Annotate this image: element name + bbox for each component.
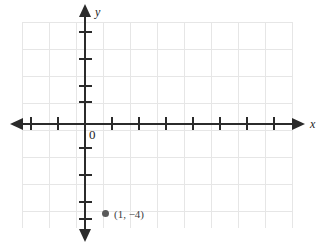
plotted-point-label: (1, −4) bbox=[114, 209, 144, 220]
y-axis-bottom-arrowhead bbox=[79, 229, 91, 242]
coordinate-plane-figure: y x 0 (1, −4) bbox=[0, 0, 322, 245]
axis-layer: y x 0 bbox=[0, 0, 322, 245]
x-axis-tick bbox=[138, 117, 140, 130]
y-axis-tick bbox=[79, 101, 92, 103]
x-axis-right-arrowhead bbox=[292, 118, 305, 130]
x-axis-tick bbox=[246, 117, 248, 130]
y-axis-tick bbox=[79, 174, 92, 176]
plotted-point-marker bbox=[102, 210, 109, 217]
y-axis-tick bbox=[79, 147, 92, 149]
x-axis-label: x bbox=[310, 118, 315, 130]
x-axis-line bbox=[22, 123, 294, 125]
x-axis-tick bbox=[165, 117, 167, 130]
y-axis-tick bbox=[79, 31, 92, 33]
x-axis-tick bbox=[273, 117, 275, 130]
x-axis-tick bbox=[219, 117, 221, 130]
x-axis-left-arrowhead bbox=[10, 118, 23, 130]
y-axis-top-arrowhead bbox=[79, 4, 91, 17]
y-axis-tick bbox=[79, 201, 92, 203]
x-axis-tick bbox=[192, 117, 194, 130]
origin-label: 0 bbox=[89, 128, 96, 141]
y-axis-label: y bbox=[95, 6, 100, 18]
y-axis-tick bbox=[79, 218, 92, 220]
x-axis-tick bbox=[57, 117, 59, 130]
x-axis-tick bbox=[111, 117, 113, 130]
y-axis-line bbox=[84, 16, 86, 232]
x-axis-tick bbox=[30, 117, 32, 130]
y-axis-tick bbox=[79, 58, 92, 60]
y-axis-tick bbox=[79, 85, 92, 87]
